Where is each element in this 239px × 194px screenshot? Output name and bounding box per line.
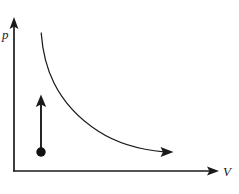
pv-diagram-figure: p V xyxy=(0,0,239,194)
y-axis-label: p xyxy=(1,27,9,42)
isotherm-curve xyxy=(41,33,164,152)
state-point-marker xyxy=(36,147,45,156)
pv-diagram-canvas: p V xyxy=(0,0,239,194)
x-axis-label: V xyxy=(223,164,233,179)
